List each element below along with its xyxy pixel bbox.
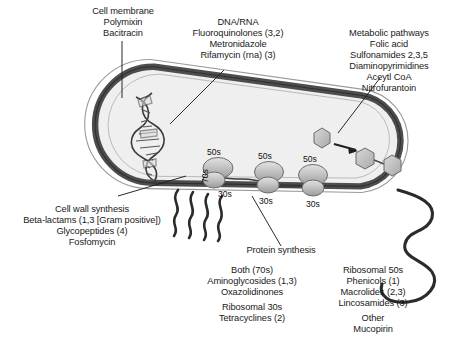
- label-dna-rna-line-3: Rifamycin (rna) (3): [172, 50, 304, 61]
- label-cell-membrane-line-1: Polymixin: [62, 17, 184, 28]
- hexagon-product-2: [384, 155, 401, 176]
- label-protein-synthesis: Protein synthesis: [226, 245, 336, 256]
- label-dna-rna: DNA/RNA Fluoroquinolones (3,2) Metronida…: [172, 17, 304, 61]
- figure-canvas: Cell membrane Polymixin Bacitracin DNA/R…: [0, 0, 469, 342]
- label-both-line-1: Aminoglycosides (1,3): [182, 276, 322, 287]
- label-ribosomal50s-line-1: Phenicols (1): [311, 276, 435, 287]
- label-metabolic-line-4: Aceytl CoA: [321, 72, 457, 83]
- label-ribosomal50s-line-0: Ribosomal 50s: [311, 265, 435, 276]
- label-ribosomal50s-line-3: Lincosamides (3): [311, 298, 435, 309]
- label-dna-rna-line-0: DNA/RNA: [172, 17, 304, 28]
- ribosome-1-50s-label: 50s: [207, 147, 221, 157]
- ribosome-3-30s-label: 30s: [306, 199, 320, 209]
- ribosome-3-50s-label: 50s: [303, 154, 317, 164]
- label-metabolic-line-1: Folic acid: [321, 39, 457, 50]
- label-metabolic-line-5: Nitrofurantoin: [321, 83, 457, 94]
- ribosome-1-30s-label: 30s: [218, 189, 232, 199]
- hexagon-product-1: [356, 148, 374, 169]
- label-ribosome-50s: Ribosomal 50s Phenicols (1) Macrolides (…: [311, 265, 435, 336]
- hexagon-substrate: [314, 128, 330, 148]
- label-metabolic-pathways: Metabolic pathways Folic acid Sulfonamid…: [321, 28, 457, 95]
- label-dna-rna-line-1: Fluoroquinolones (3,2): [172, 28, 304, 39]
- label-both-line-0: Both (70s): [182, 265, 322, 276]
- label-ribosomal30s-line-0: Ribosomal 30s: [182, 302, 322, 313]
- ribosome-2: [255, 162, 284, 194]
- ribosome-2-50s-label: 50s: [258, 151, 272, 161]
- label-ribosomal50s-line-2: Macrolides (2,3): [311, 287, 435, 298]
- label-cell-wall-line-1: Beta-lactams (1,3 [Gram positive]): [2, 215, 182, 226]
- label-ribosomal30s-line-1: Tetracyclines (2): [182, 313, 322, 324]
- label-cell-membrane-line-0: Cell membrane: [62, 6, 184, 17]
- label-cell-membrane: Cell membrane Polymixin Bacitracin: [62, 6, 184, 39]
- label-cell-wall-line-2: Glycopeptides (4): [2, 226, 182, 237]
- ribosome-3: [299, 165, 328, 197]
- label-ribosome-both: Both (70s) Aminoglycosides (1,3) Oxazoli…: [182, 265, 322, 324]
- label-metabolic-line-3: Diaminopyrimidines: [321, 61, 457, 72]
- label-dna-rna-line-2: Metronidazole: [172, 39, 304, 50]
- label-protein-synthesis-line-0: Protein synthesis: [226, 245, 336, 256]
- label-cell-wall-line-0: Cell wall synthesis: [2, 204, 182, 215]
- ribosome-1-70s-label: 70s: [200, 169, 210, 183]
- label-cell-wall-line-3: Fosfomycin: [2, 237, 182, 248]
- label-cell-wall-synthesis: Cell wall synthesis Beta-lactams (1,3 [G…: [2, 204, 182, 248]
- label-cell-membrane-line-2: Bacitracin: [62, 28, 184, 39]
- label-metabolic-line-2: Sulfonamides 2,3,5: [321, 50, 457, 61]
- label-metabolic-line-0: Metabolic pathways: [321, 28, 457, 39]
- label-other-line-1: Mucopirin: [311, 324, 435, 335]
- label-both-line-2: Oxazolidinones: [182, 287, 322, 298]
- label-other-line-0: Other: [311, 313, 435, 324]
- ribosome-2-30s-label: 30s: [259, 196, 273, 206]
